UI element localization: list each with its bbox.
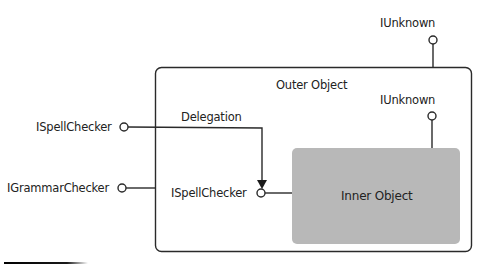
external-ispellchecker-label: ISpellChecker	[36, 120, 112, 134]
external-igrammarchecker-interface: IGrammarChecker	[7, 181, 155, 195]
inner-iunknown-interface: IUnknown	[380, 93, 436, 148]
com-delegation-diagram: Outer Object IUnknown Inner Object IUnkn…	[0, 0, 480, 264]
inner-ispellchecker-interface: ISpellChecker	[171, 186, 292, 200]
inner-object-label: Inner Object	[341, 189, 413, 203]
outer-object-label: Outer Object	[276, 78, 348, 92]
delegation-arrow-path	[128, 127, 262, 182]
outer-iunknown-lollipop-icon	[429, 36, 437, 44]
external-igrammarchecker-lollipop-icon	[118, 184, 126, 192]
outer-iunknown-interface: IUnknown	[380, 16, 437, 68]
inner-ispellchecker-lollipop-icon	[257, 189, 265, 197]
external-ispellchecker-lollipop-icon	[120, 123, 128, 131]
inner-iunknown-lollipop-icon	[428, 112, 436, 120]
inner-object: Inner Object	[292, 148, 460, 244]
delegation-label: Delegation	[181, 110, 242, 124]
inner-iunknown-label: IUnknown	[380, 93, 435, 107]
delegation-arrowhead-icon	[257, 180, 267, 189]
outer-iunknown-label: IUnknown	[380, 16, 435, 30]
external-ispellchecker-interface: ISpellChecker Delegation	[36, 110, 267, 189]
inner-ispellchecker-label: ISpellChecker	[171, 186, 247, 200]
external-igrammarchecker-label: IGrammarChecker	[7, 181, 109, 195]
